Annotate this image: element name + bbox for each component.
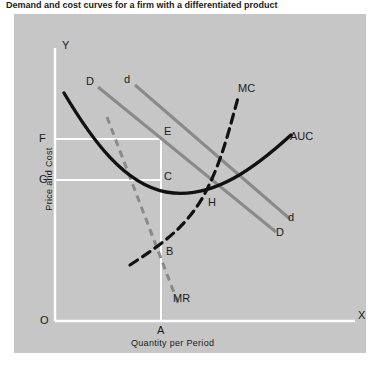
chart-panel: Y X O F G A E C H B D d D d MC AUC MR Qu… [14,14,366,353]
curve-label-MC: MC [238,82,255,94]
curve-label-D-left: D [86,75,94,87]
curve-D [98,87,276,232]
curve-label-MR: MR [173,292,190,304]
y-axis-title: Price and Cost [44,139,54,219]
curve-AUC [64,93,291,193]
curve-MC [130,98,238,265]
curve-label-AUC: AUC [290,130,313,142]
point-label-B: B [166,245,173,257]
point-label-E: E [164,125,171,137]
curve-label-d-right: d [288,211,294,223]
origin-label: O [40,314,49,326]
x-axis-title: Quantity per Period [131,338,214,348]
curve-label-D-right: D [276,226,284,238]
y-axis-end-label: Y [62,39,69,51]
curve-label-d-left: d [124,73,130,85]
figure-caption: Demand and cost curves for a firm with a… [6,0,381,12]
point-label-C: C [164,170,172,182]
x-axis-end-label: X [358,309,365,321]
point-label-H: H [208,196,216,208]
tick-label-A: A [157,324,164,336]
